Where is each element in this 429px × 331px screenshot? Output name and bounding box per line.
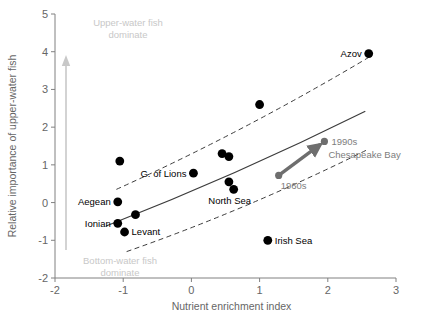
y-tick-label: -2 [38,272,48,284]
x-tick-label: 0 [188,284,194,296]
trajectory-start-point [275,172,282,179]
data-point-label: Ionian [85,218,111,229]
y-tick-label: 4 [42,46,48,58]
x-tick-label: -1 [118,284,128,296]
data-point [225,177,234,186]
x-axis-title: Nutrient enrichment index [172,300,292,312]
y-tick-label: 5 [42,8,48,20]
data-point [131,210,140,219]
trajectory-series-label: Chesapeake Bay [328,149,401,160]
data-point [115,157,124,166]
y-tick-label: 0 [42,197,48,209]
data-point-label: Azov [341,48,362,59]
y-tick-label: 2 [42,121,48,133]
data-point [120,228,129,237]
data-point [364,49,373,58]
trajectory-end-label: 1990s [331,136,357,147]
data-point [229,185,238,194]
data-point-label: G. of Lions [140,168,186,179]
y-tick-label: -1 [38,234,48,246]
bottom-zone-label-line1: Bottom-water fish [83,255,157,266]
data-point-label: North Sea [208,195,251,206]
data-point [189,169,198,178]
data-point [263,236,272,245]
y-tick-label: 3 [42,83,48,95]
data-point-label: Irish Sea [275,235,313,246]
chart-canvas: -2-10123-2-1012345Nutrient enrichment in… [0,0,429,331]
scatter-plot-figure: -2-10123-2-1012345Nutrient enrichment in… [0,0,429,331]
x-tick-label: -2 [50,284,60,296]
x-tick-label: 2 [325,284,331,296]
chesapeake-trajectory-arrow [279,144,321,175]
data-point-label: Aegean [78,196,111,207]
data-point-label: Levant [132,226,161,237]
zone-arrowhead-icon [62,55,70,66]
data-point [225,152,234,161]
data-point [255,100,264,109]
data-point [113,197,122,206]
x-tick-label: 1 [257,284,263,296]
data-point [113,219,122,228]
trajectory-start-label: 1960s [281,180,307,191]
x-tick-label: 3 [393,284,399,296]
y-tick-label: 1 [42,159,48,171]
bottom-zone-label-line2: dominate [100,267,139,278]
trajectory-end-point [321,138,328,145]
upper-zone-label-line1: Upper-water fish [93,17,163,28]
upper-zone-label-line2: dominate [108,29,147,40]
y-axis-title: Relative importance of upper-water fish [6,55,18,238]
